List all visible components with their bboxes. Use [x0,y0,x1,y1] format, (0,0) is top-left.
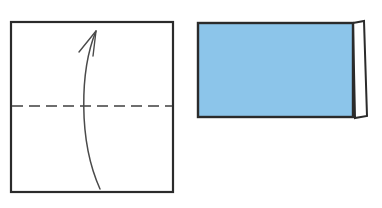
origami-diagram-root [0,0,382,208]
folded-paper-rectangle [198,23,353,117]
diagram-canvas [0,0,382,208]
panel-after-fold [198,21,367,118]
panel-before-fold [11,22,173,192]
folded-edge-flap [353,21,367,118]
